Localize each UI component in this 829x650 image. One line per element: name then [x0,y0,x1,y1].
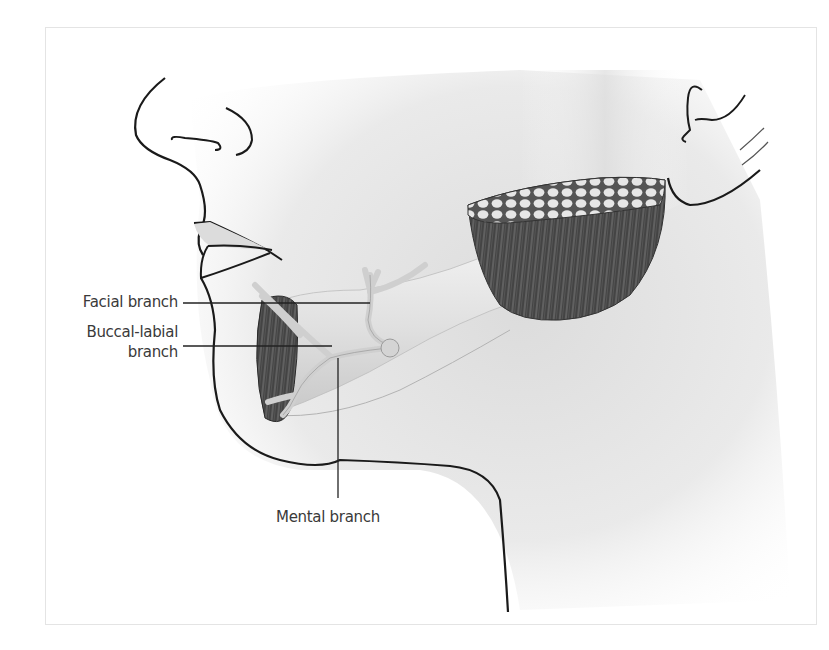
label-buccal-labial-line2: branch [60,343,178,362]
label-buccal-labial-line1: Buccal-labial [60,323,178,342]
nerve-foramen [381,339,399,357]
label-mental-branch: Mental branch [276,508,380,527]
label-facial-branch: Facial branch [60,293,178,312]
neck-back-lines [740,128,768,165]
